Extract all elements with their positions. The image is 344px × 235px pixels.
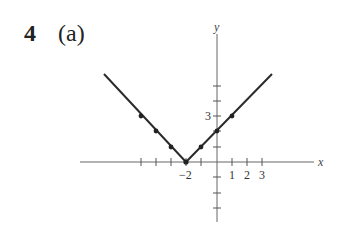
graph: y x −2 1 2 3 3	[0, 0, 344, 235]
y-axis-label: y	[213, 20, 220, 34]
x-tick-label-1: 1	[229, 168, 235, 182]
x-tick-label-3: 3	[259, 168, 265, 182]
x-tick-label-2: 2	[244, 168, 250, 182]
x-tick-label-neg2: −2	[179, 168, 192, 182]
y-tick-label-3: 3	[205, 109, 211, 123]
graph-line	[104, 74, 272, 162]
x-axis-label: x	[317, 155, 324, 169]
data-points	[139, 114, 235, 165]
